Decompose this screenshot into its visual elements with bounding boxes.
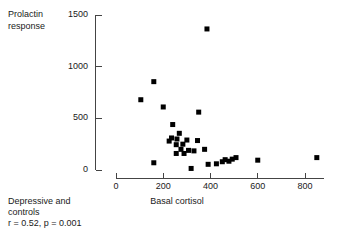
data-point: [204, 26, 209, 31]
data-point: [151, 79, 156, 84]
data-point: [174, 137, 179, 142]
data-point: [177, 131, 182, 136]
plot-canvas: [0, 0, 341, 244]
data-point: [180, 142, 185, 147]
data-point: [138, 97, 143, 102]
data-point: [206, 162, 211, 167]
data-point: [189, 166, 194, 171]
data-point: [234, 155, 239, 160]
data-point: [151, 160, 156, 165]
data-point: [191, 148, 196, 153]
data-point: [182, 151, 187, 156]
data-point: [174, 142, 179, 147]
axes-group: [96, 15, 324, 179]
scatter-plot-figure: Prolactin response Basal cortisol Depres…: [0, 0, 341, 244]
data-point: [196, 110, 201, 115]
data-point: [174, 151, 179, 156]
data-point: [195, 138, 200, 143]
data-point: [186, 148, 191, 153]
data-point: [202, 147, 207, 152]
data-point: [167, 139, 172, 144]
data-points-group: [138, 26, 319, 171]
data-point: [314, 155, 319, 160]
data-point: [255, 158, 260, 163]
data-point: [214, 161, 219, 166]
data-point: [161, 104, 166, 109]
data-point: [170, 122, 175, 127]
